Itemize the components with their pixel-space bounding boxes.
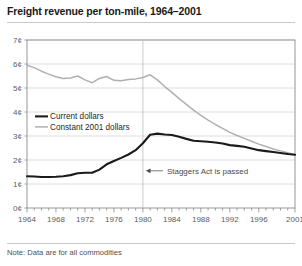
x-tick-label: 1984 bbox=[163, 215, 181, 224]
note-divider bbox=[7, 243, 295, 244]
x-tick-label: 1968 bbox=[47, 215, 65, 224]
x-minor-ticks bbox=[27, 208, 295, 213]
annotation-label-staggers-act: Staggers Act is passed bbox=[167, 167, 248, 176]
legend-label-constant-dollars: Constant 2001 dollars bbox=[50, 123, 130, 132]
staggers-annotation: Staggers Act is passed bbox=[146, 167, 248, 176]
chart-note: Note: Data are for all commodities bbox=[7, 248, 122, 257]
x-tick-label: 1976 bbox=[105, 215, 123, 224]
y-tick-label: 0¢ bbox=[13, 204, 22, 213]
x-tick-label: 1972 bbox=[76, 215, 94, 224]
x-tick-label: 1992 bbox=[221, 215, 239, 224]
x-tick-label: 1988 bbox=[192, 215, 210, 224]
series-line-constant-dollars bbox=[27, 65, 295, 155]
x-axis-tick-labels: 1964196819721976198019841988199219962001 bbox=[18, 215, 302, 224]
y-tick-label: 4¢ bbox=[13, 108, 22, 117]
page-title: Freight revenue per ton-mile, 1964–2001 bbox=[7, 5, 201, 17]
y-tick-label: 3¢ bbox=[13, 132, 22, 141]
annotation-arrow-head bbox=[146, 168, 151, 173]
y-tick-label: 5¢ bbox=[13, 84, 22, 93]
x-tick-label: 1996 bbox=[250, 215, 268, 224]
plot-area: 0¢1¢2¢3¢4¢5¢6¢7¢ 19641968197219761980198… bbox=[0, 24, 302, 236]
y-axis-tick-labels: 0¢1¢2¢3¢4¢5¢6¢7¢ bbox=[13, 36, 27, 213]
title-divider bbox=[7, 22, 295, 23]
y-tick-label: 1¢ bbox=[13, 180, 22, 189]
y-tick-label: 6¢ bbox=[13, 60, 22, 69]
y-tick-label: 2¢ bbox=[13, 156, 22, 165]
chart-legend: Current dollarsConstant 2001 dollars bbox=[35, 112, 130, 132]
chart-figure: Freight revenue per ton-mile, 1964–2001 … bbox=[0, 0, 302, 266]
x-tick-label: 1964 bbox=[18, 215, 36, 224]
legend-label-current-dollars: Current dollars bbox=[50, 112, 104, 121]
x-tick-label: 1980 bbox=[134, 215, 152, 224]
line-chart-svg: 0¢1¢2¢3¢4¢5¢6¢7¢ 19641968197219761980198… bbox=[0, 24, 302, 236]
y-tick-label: 7¢ bbox=[13, 36, 22, 45]
x-tick-label: 2001 bbox=[286, 215, 302, 224]
